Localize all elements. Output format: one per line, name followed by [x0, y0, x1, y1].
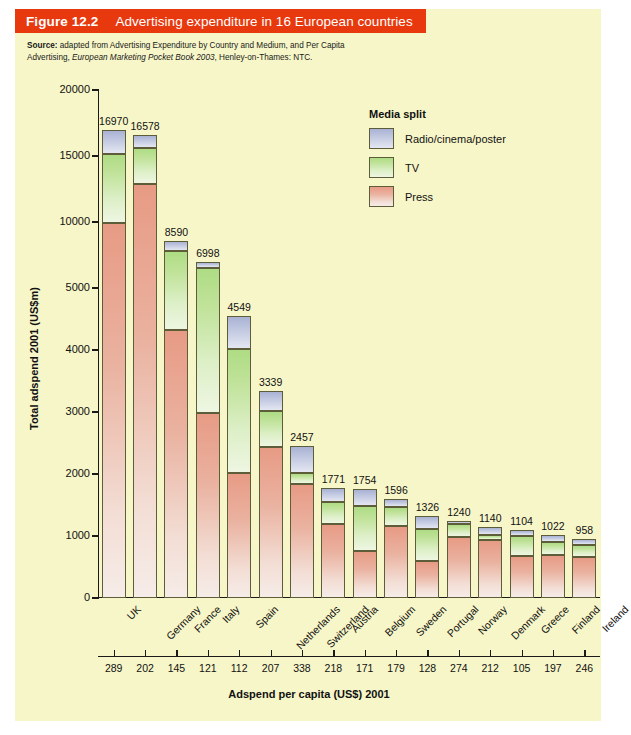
- y-axis-tick-label: 15000: [2, 149, 90, 161]
- x-axis-title: Adspend per capita (US$) 2001: [0, 688, 618, 700]
- bar-segment-tv[interactable]: [478, 535, 502, 540]
- y-axis-line: [98, 90, 99, 598]
- y-axis-tick-label: 20000: [2, 83, 90, 95]
- figure-number: Figure 12.2: [26, 14, 98, 29]
- bar-segment-press[interactable]: [321, 524, 345, 598]
- per-capita-tick: [114, 650, 115, 657]
- source-label: Source:: [27, 41, 57, 50]
- bar-segment-press[interactable]: [384, 526, 408, 598]
- per-capita-tick: [490, 650, 491, 657]
- per-capita-tick: [333, 650, 334, 657]
- bar-segment-press[interactable]: [227, 473, 251, 598]
- bar-segment-radio[interactable]: [290, 446, 314, 473]
- bar-segment-press[interactable]: [510, 556, 534, 598]
- per-capita-tick: [459, 650, 460, 657]
- bar-netherlands[interactable]: [259, 90, 283, 598]
- y-axis-tick-label: 1000: [2, 529, 90, 541]
- x-axis-category-label: Ireland: [600, 603, 631, 634]
- y-axis-tick: [92, 155, 99, 156]
- bar-segment-tv[interactable]: [415, 529, 439, 561]
- per-capita-tick: [271, 650, 272, 657]
- bar-value-label: 16578: [123, 120, 167, 132]
- y-axis-tick: [92, 535, 99, 536]
- bar-segment-press[interactable]: [164, 330, 188, 598]
- bar-segment-tv[interactable]: [227, 349, 251, 474]
- bar-segment-tv[interactable]: [572, 545, 596, 557]
- bar-belgium[interactable]: [353, 90, 377, 598]
- y-axis-tick: [92, 89, 99, 90]
- per-capita-tick: [239, 650, 240, 657]
- bar-segment-tv[interactable]: [102, 154, 126, 224]
- y-axis-tick: [92, 411, 99, 412]
- bar-segment-tv[interactable]: [164, 251, 188, 330]
- per-capita-tick: [584, 650, 585, 657]
- per-capita-tick: [176, 650, 177, 657]
- bar-segment-press[interactable]: [478, 540, 502, 598]
- y-axis-tick-label: 2000: [2, 467, 90, 479]
- y-axis-tick: [92, 221, 99, 222]
- bar-spain[interactable]: [227, 90, 251, 598]
- bar-segment-press[interactable]: [541, 555, 565, 598]
- per-capita-axis-line: [98, 656, 600, 657]
- bar-segment-radio[interactable]: [259, 391, 283, 411]
- bar-uk[interactable]: [102, 90, 126, 598]
- bar-germany[interactable]: [133, 90, 157, 598]
- bar-segment-tv[interactable]: [510, 536, 534, 556]
- y-axis-tick: [92, 597, 99, 598]
- per-capita-tick: [427, 650, 428, 657]
- bar-segment-press[interactable]: [572, 557, 596, 598]
- bar-segment-tv[interactable]: [133, 148, 157, 184]
- bar-segment-press[interactable]: [259, 447, 283, 598]
- bar-portugal[interactable]: [415, 90, 439, 598]
- bar-value-label: 958: [562, 524, 606, 536]
- bar-segment-radio[interactable]: [478, 527, 502, 535]
- y-axis-tick: [92, 349, 99, 350]
- y-axis-tick-label: 5000: [2, 281, 90, 293]
- bar-france[interactable]: [164, 90, 188, 598]
- bar-segment-press[interactable]: [196, 413, 220, 598]
- bar-ireland[interactable]: [572, 90, 596, 598]
- bar-segment-tv[interactable]: [196, 268, 220, 412]
- source-book-title: European Marketing Pocket Book 2003: [72, 53, 214, 62]
- bar-sweden[interactable]: [384, 90, 408, 598]
- y-axis-tick-label: 10000: [2, 215, 90, 227]
- bar-segment-radio[interactable]: [541, 535, 565, 542]
- bar-segment-press[interactable]: [353, 551, 377, 598]
- bar-value-label: 6998: [186, 247, 230, 259]
- source-text-line2a: Advertising,: [27, 53, 72, 62]
- per-capita-tick: [522, 650, 523, 657]
- bar-segment-radio[interactable]: [572, 539, 596, 546]
- bar-italy[interactable]: [196, 90, 220, 598]
- y-axis-tick: [92, 287, 99, 288]
- source-text-line2c: , Henley-on-Thames: NTC.: [215, 53, 313, 62]
- bar-segment-radio[interactable]: [102, 130, 126, 154]
- bar-segment-press[interactable]: [290, 484, 314, 598]
- bar-segment-radio[interactable]: [196, 262, 220, 269]
- bar-segment-press[interactable]: [415, 561, 439, 598]
- bar-segment-tv[interactable]: [541, 542, 565, 556]
- y-axis-tick-label: 3000: [2, 405, 90, 417]
- bar-switzerland[interactable]: [290, 90, 314, 598]
- bar-value-label: 8590: [154, 226, 198, 238]
- bar-value-label: 2457: [280, 431, 324, 443]
- bar-segment-tv[interactable]: [321, 502, 345, 524]
- bar-segment-press[interactable]: [133, 184, 157, 598]
- per-capita-tick: [365, 650, 366, 657]
- y-axis-tick-label: 4000: [2, 343, 90, 355]
- bar-austria[interactable]: [321, 90, 345, 598]
- per-capita-tick: [145, 650, 146, 657]
- source-text-line1: adapted from Advertising Expenditure by …: [57, 41, 344, 50]
- per-capita-tick: [302, 650, 303, 657]
- bar-segment-tv[interactable]: [447, 524, 471, 537]
- figure-banner: Figure 12.2 Advertising expenditure in 1…: [15, 9, 426, 33]
- bar-segment-radio[interactable]: [321, 488, 345, 502]
- y-axis-tick-label: 0: [2, 591, 90, 603]
- bar-segment-radio[interactable]: [227, 316, 251, 349]
- bar-segment-press[interactable]: [447, 537, 471, 598]
- bar-segment-press[interactable]: [102, 223, 126, 598]
- bar-segment-tv[interactable]: [353, 506, 377, 551]
- source-note: Source: adapted from Advertising Expendi…: [27, 40, 427, 63]
- bar-segment-radio[interactable]: [133, 135, 157, 148]
- bar-value-label: 3339: [249, 376, 293, 388]
